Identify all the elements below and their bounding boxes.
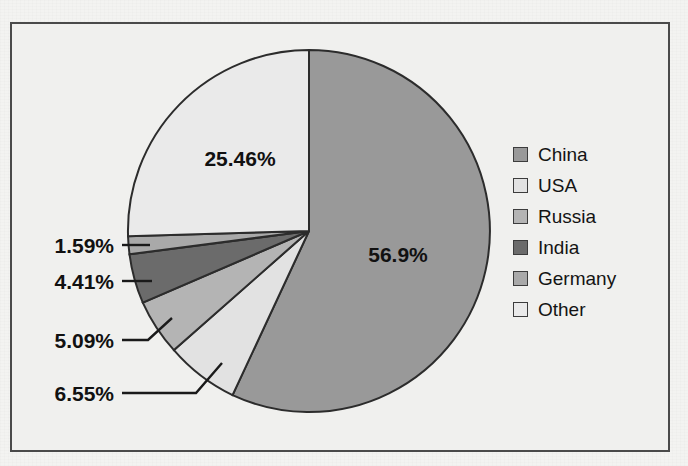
legend-item-other[interactable]: Other xyxy=(513,294,653,325)
legend-item-germany[interactable]: Germany xyxy=(513,263,653,294)
legend-swatch-icon xyxy=(513,240,528,255)
legend-swatch-icon xyxy=(513,209,528,224)
legend-label: China xyxy=(538,145,588,164)
legend-label: Russia xyxy=(538,207,596,226)
legend-label: Other xyxy=(538,300,586,319)
legend-item-china[interactable]: China xyxy=(513,139,653,170)
callout-value-germany: 1.59% xyxy=(54,234,114,257)
callout-value-russia: 5.09% xyxy=(54,329,114,352)
legend-swatch-icon xyxy=(513,178,528,193)
chart-legend: China USA Russia India Germany Other xyxy=(513,139,653,325)
callout-value-india: 4.41% xyxy=(54,270,114,293)
legend-label: USA xyxy=(538,176,577,195)
pie-slice-other[interactable] xyxy=(128,50,309,236)
legend-item-russia[interactable]: Russia xyxy=(513,201,653,232)
slice-value-other: 25.46% xyxy=(204,147,276,170)
legend-swatch-icon xyxy=(513,147,528,162)
legend-label: India xyxy=(538,238,579,257)
slice-value-china: 56.9% xyxy=(368,243,428,266)
legend-item-usa[interactable]: USA xyxy=(513,170,653,201)
callout-value-usa: 6.55% xyxy=(54,382,114,405)
legend-label: Germany xyxy=(538,269,616,288)
legend-swatch-icon xyxy=(513,271,528,286)
legend-swatch-icon xyxy=(513,302,528,317)
legend-item-india[interactable]: India xyxy=(513,232,653,263)
